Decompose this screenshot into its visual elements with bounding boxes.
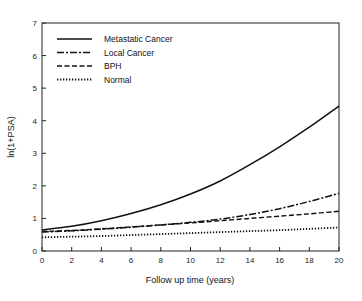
series-lines <box>42 106 339 237</box>
x-tick-label: 2 <box>69 256 74 265</box>
legend-label: Local Cancer <box>104 48 154 58</box>
y-tick-label: 7 <box>33 19 38 28</box>
y-tick-label: 0 <box>33 247 38 256</box>
x-axis-label: Follow up time (years) <box>146 275 235 285</box>
y-tick-label: 3 <box>33 149 38 158</box>
x-tick-label: 4 <box>99 256 104 265</box>
x-tick-label: 0 <box>40 256 45 265</box>
x-tick-label: 10 <box>186 256 195 265</box>
y-axis-label: ln(1+PSA) <box>6 116 16 157</box>
series-line-bph <box>42 211 339 231</box>
legend-label: Normal <box>104 75 132 85</box>
x-tick-label: 14 <box>245 256 254 265</box>
series-line-metastatic-cancer <box>42 106 339 230</box>
legend-label: BPH <box>104 61 121 71</box>
x-tick-label: 6 <box>129 256 134 265</box>
series-line-normal <box>42 228 339 238</box>
x-tick-label: 18 <box>305 256 314 265</box>
y-tick-label: 6 <box>33 52 38 61</box>
y-tick-label: 4 <box>33 117 38 126</box>
x-axis-ticks: 02468101214161820 <box>40 247 344 265</box>
x-tick-label: 20 <box>335 256 344 265</box>
line-chart: 01234567 02468101214161820 Metastatic Ca… <box>0 0 362 301</box>
y-axis-ticks: 01234567 <box>33 19 46 256</box>
series-line-local-cancer <box>42 193 339 232</box>
x-tick-label: 12 <box>216 256 225 265</box>
y-tick-label: 5 <box>33 84 38 93</box>
legend-label: Metastatic Cancer <box>104 34 173 44</box>
y-tick-label: 1 <box>33 214 38 223</box>
x-tick-label: 8 <box>159 256 164 265</box>
legend: Metastatic CancerLocal CancerBPHNormal <box>57 34 173 85</box>
x-tick-label: 16 <box>275 256 284 265</box>
y-tick-label: 2 <box>33 182 38 191</box>
